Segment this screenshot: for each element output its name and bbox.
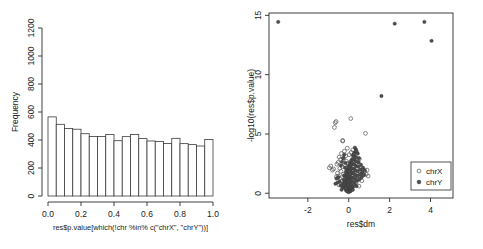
histogram-bar [122, 137, 130, 196]
data-point-chrY [352, 152, 355, 155]
data-point-chrY [362, 173, 365, 176]
y-axis-tick-label: 400 [26, 133, 36, 147]
histogram-bar [164, 144, 172, 197]
legend: chrXchrY [411, 162, 451, 190]
x-axis-tick-label: 0.8 [174, 209, 186, 219]
histogram-bar [114, 141, 122, 196]
histogram-panel: 020040060080010001200Frequency0.00.20.40… [0, 0, 241, 249]
histogram-bar [56, 124, 64, 196]
x-axis-tick-label: 0.4 [108, 209, 120, 219]
x-axis-tick-label: 0.2 [75, 209, 87, 219]
data-point-chrY [393, 22, 396, 25]
data-point-chrY [351, 188, 354, 191]
data-point-chrY [342, 157, 345, 160]
histogram-bar [73, 129, 81, 196]
series-chrY [277, 20, 434, 194]
data-point-chrY [357, 157, 360, 160]
histogram-bar [172, 138, 180, 196]
data-point-chrX [364, 131, 368, 135]
data-point-chrY [344, 161, 347, 164]
y-axis-tick-label: 600 [26, 105, 36, 119]
histogram-bar [155, 142, 163, 196]
histogram-svg: 020040060080010001200Frequency0.00.20.40… [0, 0, 241, 249]
y-axis-tick-label: 200 [26, 161, 36, 175]
data-point-chrY [363, 168, 366, 171]
data-point-chrY [353, 146, 356, 149]
data-point-chrY [339, 164, 342, 167]
volcano-svg: 051015-log10(res$p.value)-2024res$dmchrX… [241, 0, 483, 249]
data-point-chrX [334, 120, 338, 124]
data-point-chrX [347, 153, 351, 157]
histogram-bar [197, 146, 205, 196]
y-axis-tick-label: 1000 [26, 46, 36, 65]
volcano-plot-area: 051015-log10(res$p.value)-2024res$dmchrX… [246, 10, 453, 229]
x-axis-tick-label: 0.6 [141, 209, 153, 219]
histogram-bar [106, 134, 114, 196]
histogram-plot-area: 020040060080010001200Frequency0.00.20.40… [10, 18, 219, 232]
y-axis-tick-label: 0 [26, 193, 36, 198]
legend-label-chrX: chrX [426, 167, 443, 176]
x-axis-title: res$p.value[which(!chr %in% c("chrX", "c… [53, 223, 208, 232]
histogram-bar [188, 145, 196, 196]
statistical-figure: 020040060080010001200Frequency0.00.20.40… [0, 0, 483, 249]
x-axis-tick-label: 4 [428, 205, 433, 215]
data-point-chrX [349, 117, 353, 121]
histogram-bar [48, 117, 56, 196]
y-axis-title: Frequency [10, 91, 20, 132]
data-point-chrY [277, 20, 280, 23]
histogram-bar [65, 129, 73, 196]
y-axis-tick-label: 800 [26, 77, 36, 91]
histogram-bar [89, 137, 97, 197]
data-point-chrX [345, 146, 349, 150]
data-point-chrY [343, 166, 346, 169]
data-point-chrY [355, 184, 358, 187]
data-point-chrX [333, 126, 337, 130]
y-axis-title: -log10(res$p.value) [246, 69, 256, 142]
data-point-chrY [335, 177, 338, 180]
x-axis-tick-label: 1.0 [207, 209, 219, 219]
data-point-chrY [359, 163, 362, 166]
histogram-bar [131, 134, 139, 196]
x-axis-tick-label: -2 [304, 205, 312, 215]
data-point-chrY [343, 153, 346, 156]
data-point-chrY [380, 94, 383, 97]
x-axis-tick-label: 2 [387, 205, 392, 215]
data-point-chrY [334, 182, 337, 185]
legend-label-chrY: chrY [426, 178, 443, 187]
histogram-bar [205, 140, 213, 196]
x-axis-tick-label: 0 [346, 205, 351, 215]
y-axis-tick-label: 0 [253, 191, 263, 196]
legend-marker-chrY [417, 180, 421, 184]
histogram-bar [98, 137, 106, 197]
histogram-bar [139, 139, 147, 196]
data-point-chrY [355, 149, 358, 152]
data-point-chrY [339, 184, 342, 187]
x-axis-tick-label: 0.0 [42, 209, 54, 219]
histogram-bar [147, 141, 155, 196]
data-point-chrY [430, 39, 433, 42]
data-point-chrY [423, 20, 426, 23]
histogram-bar [180, 144, 188, 196]
y-axis-tick-label: 1200 [26, 18, 36, 37]
data-point-chrY [344, 187, 347, 190]
y-axis-tick-label: 15 [253, 10, 263, 20]
volcano-panel: 051015-log10(res$p.value)-2024res$dmchrX… [241, 0, 483, 249]
histogram-bar [81, 134, 89, 196]
data-point-chrY [340, 160, 343, 163]
x-axis-title: res$dm [347, 219, 375, 229]
